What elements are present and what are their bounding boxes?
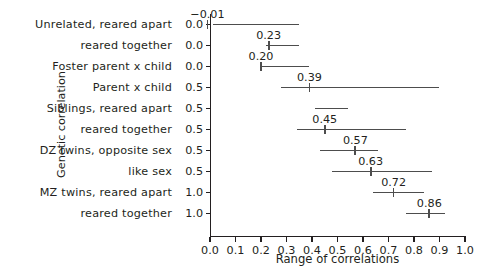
value-label: 0.57 [343, 134, 368, 147]
category-label-list: Unrelated, reared apart reared together … [0, 14, 178, 224]
y-tick-label: 1.0 [178, 182, 206, 203]
range-bar [281, 87, 439, 89]
range-bar [315, 108, 348, 110]
genetic-correlation-chart: Unrelated, reared apart reared together … [0, 0, 489, 277]
y-tick-label: 0.0 [178, 56, 206, 77]
value-marker [207, 20, 209, 29]
value-label: 0.39 [297, 71, 322, 84]
y-axis-line [210, 14, 211, 236]
x-axis-tick [362, 237, 363, 242]
x-axis-tick [209, 237, 210, 242]
x-axis-tick [464, 237, 465, 242]
range-bar [261, 66, 309, 68]
value-label: 0.45 [312, 113, 337, 126]
y-axis-tick [206, 45, 211, 46]
y-axis-tick [206, 87, 211, 88]
x-axis-tick [337, 237, 338, 242]
category-label: reared together [0, 203, 178, 224]
range-bar [213, 24, 300, 26]
value-marker [324, 125, 326, 134]
value-label: 0.23 [256, 29, 281, 42]
y-axis-tick [206, 213, 211, 214]
value-marker [309, 83, 311, 92]
value-marker [354, 146, 356, 155]
category-label: Siblings, reared apart [0, 98, 178, 119]
y-tick-label: 0.0 [178, 35, 206, 56]
y-axis-tick [206, 66, 211, 67]
y-tick-label: 1.0 [178, 203, 206, 224]
plot-area: 0.00.10.20.30.40.50.60.70.80.91.0 −0.010… [210, 14, 465, 239]
value-marker [428, 209, 430, 218]
range-bar [406, 213, 444, 215]
range-bar [373, 192, 424, 194]
y-axis-tick [206, 129, 211, 130]
value-label: −0.01 [190, 8, 224, 21]
range-bar [266, 45, 299, 47]
category-label: reared together [0, 119, 178, 140]
range-bar [332, 171, 431, 173]
category-label: DZ twins, opposite sex [0, 140, 178, 161]
value-marker [393, 188, 395, 197]
y-tick-label: 0.5 [178, 77, 206, 98]
value-marker [260, 62, 262, 71]
x-axis-tick [388, 237, 389, 242]
x-axis-tick [260, 237, 261, 242]
category-label: reared together [0, 35, 178, 56]
value-label: 0.72 [381, 176, 406, 189]
x-axis-tick [286, 237, 287, 242]
y-axis-tick [206, 108, 211, 109]
category-label: like sex [0, 161, 178, 182]
x-axis-tick [311, 237, 312, 242]
y-axis-tick-labels: 0.0 0.0 0.0 0.5 0.5 0.5 0.5 0.5 1.0 1.0 [178, 14, 206, 224]
category-label: Parent x child [0, 77, 178, 98]
value-marker [370, 167, 372, 176]
range-bar [320, 150, 379, 152]
x-axis-tick [235, 237, 236, 242]
category-label: Unrelated, reared apart [0, 14, 178, 35]
x-axis-tick [413, 237, 414, 242]
y-tick-label: 0.5 [178, 98, 206, 119]
category-label: MZ twins, reared apart [0, 182, 178, 203]
y-axis-title: Genetic correlation [55, 15, 68, 235]
value-label: 0.20 [249, 50, 274, 63]
x-axis-title: Range of correlations [210, 252, 465, 266]
y-tick-label: 0.5 [178, 140, 206, 161]
y-axis-tick [206, 150, 211, 151]
value-label: 0.86 [417, 197, 442, 210]
y-axis-tick [206, 171, 211, 172]
value-label: 0.63 [358, 155, 383, 168]
y-axis-tick [206, 192, 211, 193]
y-tick-label: 0.5 [178, 161, 206, 182]
category-label: Foster parent x child [0, 56, 178, 77]
range-bar [297, 129, 407, 131]
y-tick-label: 0.5 [178, 119, 206, 140]
x-axis-tick [439, 237, 440, 242]
